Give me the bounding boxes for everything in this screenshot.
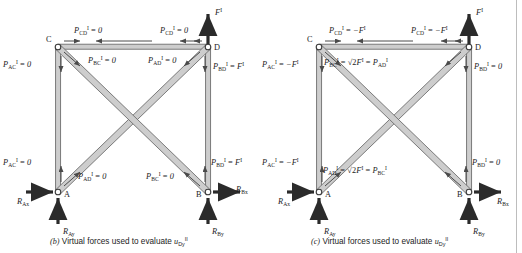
force-label-bc-bottom: PBCI = 0 — [146, 172, 174, 182]
reaction-label-Bx: RBx — [497, 198, 509, 207]
member-ac — [56, 47, 61, 192]
force-label-bd-top: PBDI = FI — [213, 62, 244, 72]
node-label-A: A — [325, 190, 331, 199]
node-label-D: D — [475, 43, 481, 52]
virtual-force-diagrams-figure: C D A B FI PCDI = 0 PCDI = 0 PACI = 0 PB… — [0, 0, 522, 253]
reaction-label-Bx: RBx — [236, 186, 248, 195]
applied-load-label-F: FI — [476, 8, 483, 17]
force-label-cd-top-left: PCDI = 0 — [74, 26, 102, 36]
member-bd — [206, 47, 211, 192]
node-label-C: C — [46, 35, 52, 44]
force-label-ad-top: PADI = 0 — [148, 56, 177, 66]
force-label-bd-bottom: PBDI = 0 — [472, 158, 500, 168]
member-cd — [58, 44, 208, 49]
force-label-cd-top-right: PCDI = 0 — [160, 26, 188, 36]
diagonal-equation-bottom: PADI = √2FI = PBCI — [323, 166, 387, 176]
joint-A — [55, 189, 61, 195]
force-label-ac-top: PACI = −FI — [262, 60, 299, 70]
node-label-A: A — [64, 190, 70, 199]
joint-B — [205, 189, 211, 195]
joint-D — [205, 44, 211, 50]
member-bd — [467, 47, 472, 192]
force-label-cd-top-right: PCDI = −FI — [411, 26, 448, 36]
joint-B — [466, 189, 472, 195]
force-label-bd-top: PBDI = 0 — [474, 62, 502, 72]
node-label-B: B — [457, 190, 463, 199]
reaction-label-By: RBy — [473, 228, 485, 237]
panel-b: C D A B FI PCDI = 0 PCDI = 0 PACI = 0 PB… — [0, 0, 261, 253]
node-label-B: B — [196, 190, 202, 199]
force-label-bc-top: PBCI = 0 — [88, 56, 116, 66]
force-label-ad-bottom: PADI = 0 — [78, 172, 107, 182]
force-label-cd-top-left: PCDI = −FI — [329, 26, 366, 36]
joint-D — [466, 44, 472, 50]
force-label-ac-bottom: PACI = 0 — [3, 158, 31, 168]
node-label-C: C — [307, 35, 313, 44]
force-label-ac-top: PACI = 0 — [3, 60, 31, 70]
panel-c: C D A B FI PCDI = −FI PCDI = −FI PACI = … — [261, 0, 522, 253]
joint-C — [55, 44, 61, 50]
caption-b: (b) Virtual forces used to evaluate uDyI… — [50, 236, 188, 247]
reaction-arrows — [26, 192, 240, 224]
reaction-label-By: RBy — [212, 228, 224, 237]
diagonal-equation-top: PBCI = √2FI = PADI — [324, 58, 388, 68]
panel-b-drawing — [0, 0, 261, 253]
force-label-bd-bottom: PBDI = FI — [211, 158, 242, 168]
reaction-label-Ax: RAx — [278, 198, 290, 207]
member-cd — [319, 44, 469, 49]
panel-c-drawing — [261, 0, 522, 253]
node-label-D: D — [214, 43, 220, 52]
force-label-ac-bottom: PACI = −FI — [262, 158, 299, 168]
reaction-label-Ax: RAx — [17, 198, 29, 207]
reaction-arrows — [287, 192, 501, 224]
joint-A — [316, 189, 322, 195]
caption-c: (c) Virtual forces used to evaluate uDyI… — [311, 236, 448, 247]
joint-C — [316, 44, 322, 50]
applied-load-label-F: FI — [215, 8, 222, 17]
member-ac — [317, 47, 322, 192]
panel-divider — [516, 0, 517, 253]
